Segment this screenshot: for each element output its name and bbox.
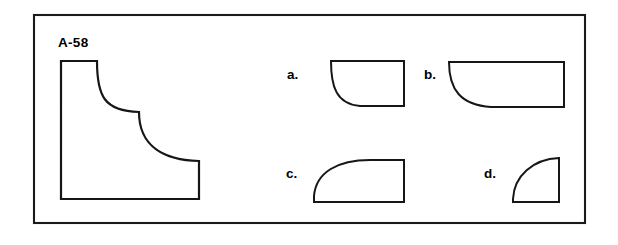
- option-shape-a: [331, 61, 404, 106]
- figure-id-label: A-58: [58, 35, 89, 50]
- figure-container: A-58 a. b. c. d.: [0, 0, 618, 245]
- option-label-c: c.: [286, 166, 297, 181]
- option-label-b: b.: [424, 67, 436, 82]
- figure-canvas: A-58 a. b. c. d.: [0, 0, 618, 245]
- option-label-a: a.: [287, 67, 298, 82]
- option-shape-b: [449, 62, 564, 107]
- option-label-d: d.: [484, 166, 496, 181]
